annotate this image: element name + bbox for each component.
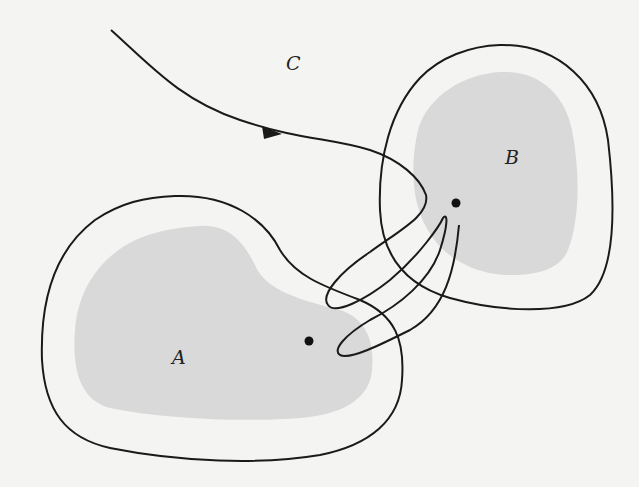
label-a: A [172,346,186,368]
label-b: B [505,146,519,168]
region-b-shade [413,72,577,275]
point-a [305,337,314,346]
region-a-shade [74,226,372,420]
point-b [452,199,461,208]
arrow-icon [262,126,282,139]
diagram-canvas [0,0,639,487]
label-c: C [286,52,301,74]
